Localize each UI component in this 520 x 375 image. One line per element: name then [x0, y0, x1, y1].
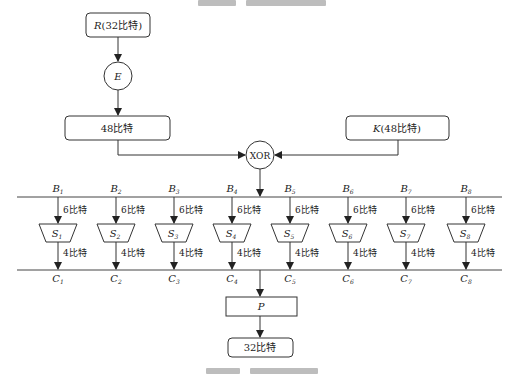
svg-text:B2: B2 — [109, 183, 121, 195]
svg-text:4比特: 4比特 — [411, 247, 435, 258]
output-32bit-box: 32比特 — [228, 338, 293, 357]
svg-text:6比特: 6比特 — [295, 204, 319, 215]
svg-text:K(48比特): K(48比特) — [372, 123, 421, 134]
svg-text:C6: C6 — [342, 273, 354, 285]
svg-text:R(32比特): R(32比特) — [93, 20, 142, 31]
svg-text:6比特: 6比特 — [471, 204, 495, 215]
svg-text:4比特: 4比特 — [471, 247, 495, 258]
svg-text:48比特: 48比特 — [101, 123, 134, 134]
r-input-box: R(32比特) — [86, 13, 150, 37]
xor-circle: XOR — [246, 141, 274, 169]
svg-text:C3: C3 — [168, 273, 180, 285]
svg-text:6比特: 6比特 — [63, 204, 87, 215]
svg-text:4比特: 4比特 — [179, 247, 203, 258]
svg-text:32比特: 32比特 — [244, 342, 277, 353]
svg-text:B1: B1 — [51, 183, 63, 195]
svg-text:B5: B5 — [283, 183, 295, 195]
arrow-key-to-xor — [275, 140, 398, 155]
svg-text:E: E — [113, 71, 122, 82]
svg-text:4比特: 4比特 — [121, 247, 145, 258]
svg-text:6比特: 6比特 — [121, 204, 145, 215]
svg-text:4比特: 4比特 — [237, 247, 261, 258]
svg-text:C4: C4 — [226, 273, 238, 285]
svg-text:B4: B4 — [225, 183, 237, 195]
svg-text:B8: B8 — [459, 183, 471, 195]
svg-text:P: P — [257, 301, 265, 312]
svg-text:C7: C7 — [400, 273, 412, 285]
svg-text:6比特: 6比特 — [353, 204, 377, 215]
expansion-circle: E — [104, 62, 132, 90]
svg-text:C1: C1 — [52, 273, 63, 285]
svg-text:6比特: 6比特 — [237, 204, 261, 215]
svg-text:6比特: 6比特 — [179, 204, 203, 215]
svg-text:B3: B3 — [167, 183, 179, 195]
key-48bit-box: K(48比特) — [346, 116, 449, 140]
svg-text:4比特: 4比特 — [63, 247, 87, 258]
svg-text:C5: C5 — [284, 273, 296, 285]
expanded-48bit-box: 48比特 — [65, 116, 170, 140]
svg-text:6比特: 6比特 — [411, 204, 435, 215]
svg-text:C2: C2 — [110, 273, 122, 285]
svg-text:4比特: 4比特 — [353, 247, 377, 258]
svg-text:B7: B7 — [399, 183, 411, 195]
permutation-box: P — [226, 297, 297, 316]
arrow-48bit-to-xor — [118, 140, 245, 155]
svg-text:C8: C8 — [460, 273, 472, 285]
svg-text:4比特: 4比特 — [295, 247, 319, 258]
svg-text:XOR: XOR — [250, 151, 271, 161]
svg-text:B6: B6 — [341, 183, 353, 195]
